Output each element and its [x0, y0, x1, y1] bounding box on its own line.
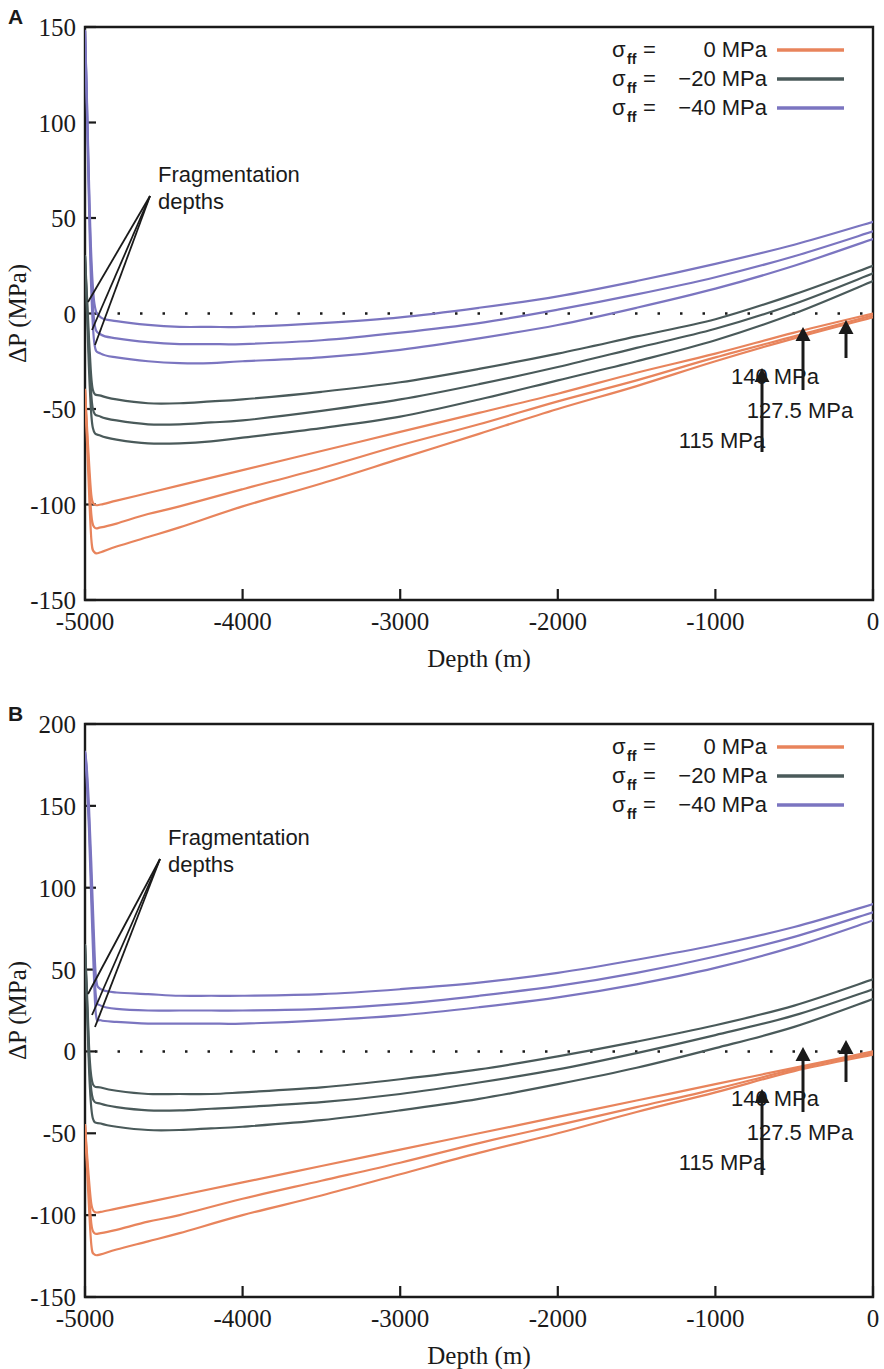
- annotation-line-2: depths: [158, 189, 224, 214]
- legend-sigma-symbol: σ: [612, 763, 626, 788]
- legend-value: 0 MPa: [703, 37, 767, 62]
- y-tick-label: -50: [43, 396, 76, 423]
- annotation-leader-line: [88, 859, 160, 994]
- annotation-line-1: Fragmentation: [168, 825, 310, 850]
- y-tick-label: -100: [30, 1202, 76, 1229]
- legend-value: 0 MPa: [703, 734, 767, 759]
- annotation-line-1: Fragmentation: [158, 162, 300, 187]
- legend-sigma-symbol: σ: [612, 734, 626, 759]
- annotation-line-2: depths: [168, 852, 234, 877]
- y-tick-label: -100: [30, 492, 76, 519]
- x-tick-label: -4000: [213, 1305, 271, 1332]
- y-axis-title: ΔP (MPa): [4, 961, 32, 1060]
- panel-letter: B: [8, 702, 23, 725]
- legend-equals: =: [643, 792, 656, 817]
- legend-equals: =: [643, 763, 656, 788]
- legend-equals: =: [643, 95, 656, 120]
- legend: σff=0 MPaσff=−20 MPaσff=−40 MPa: [612, 734, 844, 822]
- x-axis-title: Depth (m): [427, 645, 530, 672]
- y-tick-label: 0: [64, 301, 77, 328]
- x-tick-label: 0: [867, 608, 880, 635]
- legend-equals: =: [643, 734, 656, 759]
- legend-equals: =: [643, 37, 656, 62]
- plot-b: B-5000-4000-3000-2000-10000200150100500-…: [0, 697, 884, 1369]
- mpa-arrow-label: 115 MPa: [679, 428, 766, 453]
- x-tick-label: -2000: [529, 608, 587, 635]
- legend-sigma-subscript: ff: [627, 109, 637, 125]
- legend-sigma-subscript: ff: [627, 80, 637, 96]
- legend-value: −40 MPa: [678, 95, 767, 120]
- mpa-arrow-label: 140 MPa: [731, 364, 820, 389]
- annotation-leader-line: [92, 859, 160, 1015]
- figure-container: A-5000-4000-3000-2000-10000150100500-50-…: [0, 0, 884, 1369]
- annotation-leader-line: [88, 196, 150, 302]
- y-tick-label: 100: [39, 875, 77, 902]
- mpa-arrow-head: [839, 1040, 854, 1054]
- annotation-leader-line: [95, 859, 160, 1027]
- legend-sigma-subscript: ff: [627, 777, 637, 793]
- y-tick-label: -150: [30, 1284, 76, 1311]
- legend-sigma-subscript: ff: [627, 51, 637, 67]
- y-tick-label: -150: [30, 587, 76, 614]
- legend-sigma-subscript: ff: [627, 806, 637, 822]
- panel-a: A-5000-4000-3000-2000-10000150100500-50-…: [0, 0, 884, 672]
- plot-a: A-5000-4000-3000-2000-10000150100500-50-…: [0, 0, 884, 672]
- y-tick-label: 150: [39, 14, 77, 41]
- fragmentation-depths-annotation: Fragmentationdepths: [88, 162, 300, 345]
- y-tick-label: 50: [51, 205, 76, 232]
- x-tick-label: -2000: [529, 1305, 587, 1332]
- y-tick-label: 150: [39, 793, 77, 820]
- legend-sigma-symbol: σ: [612, 792, 626, 817]
- legend-value: −40 MPa: [678, 792, 767, 817]
- panel-b: B-5000-4000-3000-2000-10000200150100500-…: [0, 697, 884, 1369]
- legend-value: −20 MPa: [678, 66, 767, 91]
- data-curve: [85, 945, 873, 1094]
- legend-value: −20 MPa: [678, 763, 767, 788]
- x-axis-title: Depth (m): [427, 1342, 530, 1369]
- annotation-leader-line: [92, 196, 150, 330]
- y-tick-label: 0: [64, 1038, 77, 1065]
- legend-sigma-symbol: σ: [612, 95, 626, 120]
- y-tick-label: -50: [43, 1120, 76, 1147]
- mpa-arrow-label: 140 MPa: [731, 1086, 820, 1111]
- x-tick-label: 0: [867, 1305, 880, 1332]
- x-tick-label: -3000: [371, 1305, 429, 1332]
- mpa-arrow-head: [796, 1047, 811, 1061]
- x-tick-label: -1000: [686, 608, 744, 635]
- legend-equals: =: [643, 66, 656, 91]
- y-tick-label: 50: [51, 957, 76, 984]
- panel-letter: A: [8, 5, 23, 28]
- x-tick-label: -1000: [686, 1305, 744, 1332]
- x-tick-label: -3000: [371, 608, 429, 635]
- y-tick-label: 200: [39, 711, 77, 738]
- legend-sigma-symbol: σ: [612, 37, 626, 62]
- legend: σff=0 MPaσff=−20 MPaσff=−40 MPa: [612, 37, 844, 125]
- legend-sigma-symbol: σ: [612, 66, 626, 91]
- x-tick-label: -4000: [213, 608, 271, 635]
- y-axis-title: ΔP (MPa): [4, 264, 32, 363]
- data-curve: [85, 752, 873, 1011]
- y-tick-label: 100: [39, 110, 77, 137]
- legend-sigma-subscript: ff: [627, 748, 637, 764]
- mpa-arrow-label: 115 MPa: [679, 1150, 766, 1175]
